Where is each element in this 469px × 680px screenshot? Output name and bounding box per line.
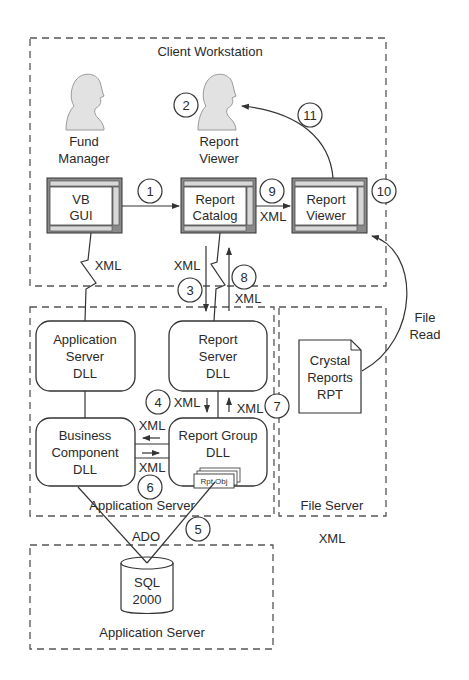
svg-text:3: 3 xyxy=(186,283,193,298)
rpt-obj-label: Rpt Obj xyxy=(200,477,227,486)
xml-label-vb-link: XML xyxy=(95,258,122,273)
application-server-dll-label-3: DLL xyxy=(73,366,97,381)
report-catalog-label-line1: Report xyxy=(195,192,234,207)
business-component-label-2: Component xyxy=(51,445,119,460)
svg-text:1: 1 xyxy=(146,184,153,199)
file-server-label: File Server xyxy=(301,498,365,513)
step-9-badge: 9 xyxy=(260,179,284,203)
xml-label-to-reportgroup: XML xyxy=(139,460,166,475)
ado-label: ADO xyxy=(132,529,160,544)
svg-text:9: 9 xyxy=(268,184,275,199)
report-catalog-label-line2: Catalog xyxy=(193,208,238,223)
report-server-dll-label-3: DLL xyxy=(206,366,230,381)
xml-label-step-7: XML xyxy=(237,401,264,416)
client-workstation-label: Client Workstation xyxy=(157,44,262,59)
svg-text:7: 7 xyxy=(273,399,280,414)
vb-gui-label-line2: GUI xyxy=(69,208,92,223)
application-server-dll-label-1: Application xyxy=(53,332,117,347)
application-server-lower-label: Application Server xyxy=(99,625,205,640)
step-4-badge: 4 xyxy=(146,390,170,414)
report-group-label-2: DLL xyxy=(206,445,230,460)
xml-label-step-4: XML xyxy=(174,395,201,410)
xml-label-standalone: XML xyxy=(319,531,346,546)
report-viewer-window-label-line2: Viewer xyxy=(306,208,346,223)
svg-text:10: 10 xyxy=(377,184,391,199)
application-server-dll-label-2: Server xyxy=(66,349,105,364)
xml-label-to-business: XML xyxy=(139,418,166,433)
report-viewer-window-label-line1: Report xyxy=(306,192,345,207)
file-read-label-1: File xyxy=(415,310,436,325)
file-read-label-2: Read xyxy=(409,327,440,342)
step-2-badge: 2 xyxy=(174,93,198,117)
step-8-badge: 8 xyxy=(232,265,256,289)
step-6-badge: 6 xyxy=(138,475,162,499)
report-viewer-label-line1: Report xyxy=(199,134,238,149)
xml-label-step-3: XML xyxy=(174,258,201,273)
svg-text:5: 5 xyxy=(194,522,201,537)
arrow-step-10-file-read xyxy=(362,236,407,371)
crystal-reports-label-2: Reports xyxy=(307,370,353,385)
svg-text:8: 8 xyxy=(240,270,247,285)
crystal-reports-label-3: RPT xyxy=(317,387,343,402)
svg-text:6: 6 xyxy=(146,480,153,495)
step-5-badge: 5 xyxy=(186,517,210,541)
network-link-catalog-reportserver xyxy=(211,233,225,321)
svg-text:11: 11 xyxy=(303,108,317,123)
fund-manager-label-line2: Manager xyxy=(58,151,110,166)
business-component-label-1: Business xyxy=(59,428,112,443)
application-server-upper-label: Application Server xyxy=(89,498,195,513)
report-group-label-1: Report Group xyxy=(179,428,258,443)
step-11-badge: 11 xyxy=(298,103,322,127)
step-1-badge: 1 xyxy=(138,179,162,203)
fund-manager-person-icon xyxy=(66,74,104,130)
network-link-vb-appserver xyxy=(81,233,96,321)
sql-label-2: 2000 xyxy=(133,592,162,607)
svg-text:2: 2 xyxy=(182,98,189,113)
report-viewer-person-icon xyxy=(198,74,236,130)
xml-label-step-8: XML xyxy=(235,291,262,306)
crystal-reports-label-1: Crystal xyxy=(310,353,351,368)
svg-text:4: 4 xyxy=(154,395,161,410)
vb-gui-label-line1: VB xyxy=(72,192,89,207)
fund-manager-label-line1: Fund xyxy=(69,134,99,149)
step-3-badge: 3 xyxy=(178,278,202,302)
architecture-diagram: Client Workstation Application Server Fi… xyxy=(0,0,469,680)
xml-label-step-9: XML xyxy=(260,209,287,224)
step-7-badge: 7 xyxy=(265,394,289,418)
report-server-dll-label-1: Report xyxy=(198,332,237,347)
report-server-dll-label-2: Server xyxy=(199,349,238,364)
business-component-label-3: DLL xyxy=(73,462,97,477)
sql-label-1: SQL xyxy=(134,575,160,590)
report-viewer-label-line2: Viewer xyxy=(199,151,239,166)
step-10-badge: 10 xyxy=(372,179,396,203)
